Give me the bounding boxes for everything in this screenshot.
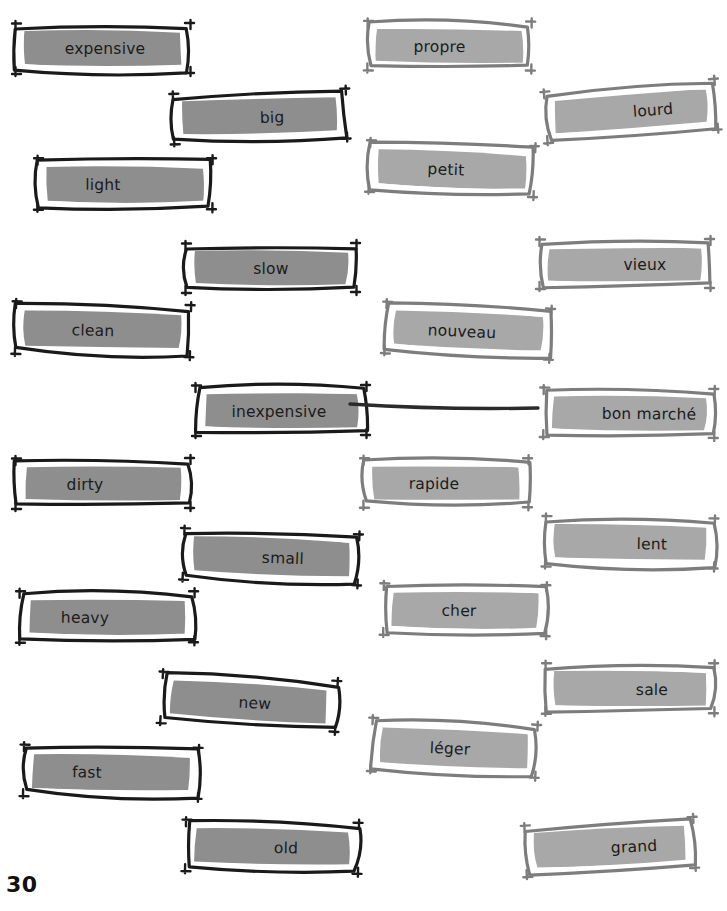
worksheet-canvas: expensivebiglightslowcleaninexpensivedir…: [0, 0, 727, 911]
match-lines-layer: [0, 0, 727, 911]
match-line-inexpensive-bon-marche[interactable]: [350, 404, 538, 409]
